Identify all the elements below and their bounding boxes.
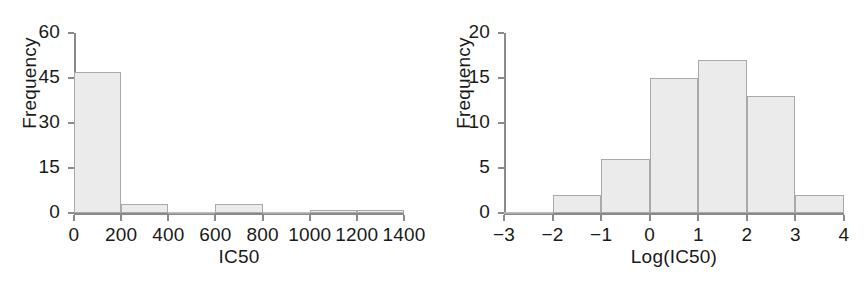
histogram-bar (263, 212, 310, 214)
y-tick (68, 32, 74, 34)
y-tick-label: 45 (0, 66, 60, 88)
histogram-bar (795, 195, 844, 213)
y-axis-line (504, 33, 506, 213)
x-tick (214, 215, 216, 221)
y-tick (498, 122, 504, 124)
x-tick (120, 215, 122, 221)
x-axis-label: Log(IC50) (504, 246, 844, 268)
chart-panel-ic50: Frequency 015304560020040060080010001200… (0, 0, 434, 285)
y-tick-label: 20 (430, 21, 490, 43)
x-tick (552, 215, 554, 221)
x-tick (649, 215, 651, 221)
histogram-figure: Frequency 015304560020040060080010001200… (0, 0, 868, 285)
x-axis-line (74, 213, 404, 215)
histogram-bar (74, 72, 121, 213)
x-tick-label: 4 (804, 224, 868, 246)
x-tick (746, 215, 748, 221)
x-tick-label: 1400 (364, 224, 444, 246)
x-tick (697, 215, 699, 221)
y-tick-label: 60 (0, 21, 60, 43)
histogram-bar (168, 212, 215, 214)
histogram-bar (121, 204, 168, 213)
y-tick-label: 15 (430, 66, 490, 88)
y-tick-label: 30 (0, 111, 60, 133)
x-axis-line (504, 213, 844, 215)
y-tick-label: 15 (0, 156, 60, 178)
plot-area: 0153045600200400600800100012001400 (74, 33, 404, 213)
y-tick-label: 0 (430, 201, 490, 223)
x-axis-label: IC50 (74, 246, 404, 268)
histogram-bar (215, 204, 262, 213)
plot-area: 05101520−3−2−101234 (504, 33, 844, 213)
histogram-bar (650, 78, 699, 213)
histogram-bar (504, 212, 553, 214)
x-tick (167, 215, 169, 221)
x-tick (73, 215, 75, 221)
histogram-bar (553, 195, 602, 213)
chart-panel-log-ic50: Frequency 05101520−3−2−101234 Log(IC50) (434, 0, 868, 285)
y-tick-label: 5 (430, 156, 490, 178)
histogram-bar (357, 210, 404, 213)
x-tick (262, 215, 264, 221)
x-tick (356, 215, 358, 221)
x-tick (503, 215, 505, 221)
histogram-bar (310, 210, 357, 213)
y-tick-label: 0 (0, 201, 60, 223)
y-tick (498, 32, 504, 34)
histogram-bar (698, 60, 747, 213)
x-tick (794, 215, 796, 221)
x-tick (843, 215, 845, 221)
histogram-bar (601, 159, 650, 213)
x-tick (600, 215, 602, 221)
x-tick (403, 215, 405, 221)
histogram-bar (747, 96, 796, 213)
x-tick (309, 215, 311, 221)
y-tick (498, 167, 504, 169)
y-tick-label: 10 (430, 111, 490, 133)
y-tick (498, 77, 504, 79)
